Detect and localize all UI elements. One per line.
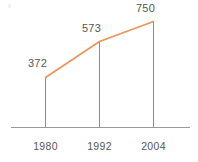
chart-stems-group [46, 22, 154, 128]
x-tick-label-1980: 1980 [25, 140, 66, 152]
data-label-1980: 372 [28, 57, 47, 69]
data-label-2004: 750 [136, 2, 155, 14]
data-label-1992: 573 [82, 22, 101, 34]
x-tick-label-2004: 2004 [133, 140, 174, 152]
line-chart: 372 573 750 1980 1992 2004 [0, 0, 198, 162]
x-tick-label-1992: 1992 [79, 140, 120, 152]
